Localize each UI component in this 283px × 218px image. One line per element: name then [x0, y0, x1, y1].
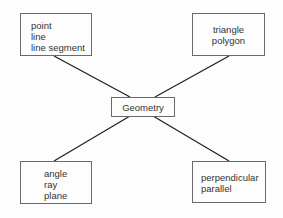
- geometry-concept-map: point line line segment triangle polygon…: [0, 0, 283, 218]
- connector-bottom-right: [153, 116, 229, 161]
- connector-top-left: [54, 56, 130, 97]
- node-top-left: point line line segment: [20, 13, 92, 56]
- node-item: perpendicular: [201, 172, 265, 183]
- center-label: Geometry: [112, 102, 174, 113]
- node-item: plane: [44, 190, 91, 201]
- node-item: angle: [44, 168, 91, 179]
- node-item: line: [31, 31, 91, 42]
- node-top-right: triangle polygon: [192, 13, 265, 56]
- node-item: parallel: [201, 183, 265, 194]
- node-bottom-left: angle ray plane: [20, 161, 92, 204]
- center-node: Geometry: [111, 97, 175, 117]
- node-bottom-right: perpendicular parallel: [192, 161, 266, 203]
- node-item: point: [31, 20, 91, 31]
- node-item: polygon: [193, 35, 264, 46]
- node-item: ray: [44, 179, 91, 190]
- connector-bottom-left: [54, 116, 130, 161]
- node-item: line segment: [31, 42, 91, 53]
- node-item: triangle: [193, 24, 264, 35]
- connector-top-right: [155, 56, 229, 97]
